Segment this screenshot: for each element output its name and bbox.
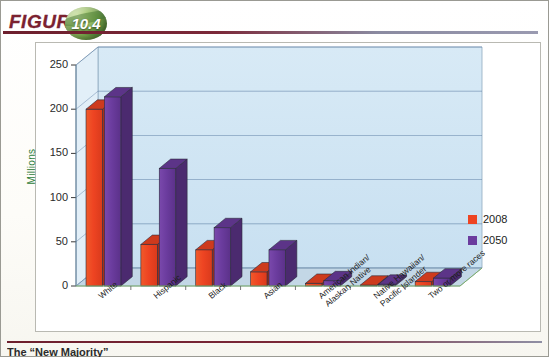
y-axis-tick: 50 [56, 235, 68, 247]
y-axis-tick-labels: 050100150200250 [34, 43, 68, 333]
legend-swatch-2008 [468, 215, 477, 224]
globe-icon: 10.4 [65, 7, 107, 40]
chart-container: 050100150200250 Millions WhiteHispanicBl… [35, 42, 541, 332]
bar-2050-2 [214, 218, 242, 286]
y-axis-tick: 0 [62, 279, 68, 291]
figure-page: FIGURE 10.4 [0, 0, 549, 357]
legend-label-2050: 2050 [483, 234, 507, 246]
legend-label-2008: 2008 [483, 213, 507, 225]
figure-caption: The “New Majority” [7, 346, 407, 357]
y-axis-tick: 250 [50, 58, 68, 70]
y-axis-title: Millions [26, 149, 37, 185]
y-axis-tick: 100 [50, 191, 68, 203]
chart-canvas [36, 43, 542, 333]
legend-item: 2050 [468, 234, 538, 246]
bar-2050-0 [104, 87, 132, 286]
bar-2050-1 [159, 159, 187, 286]
y-axis-tick: 150 [50, 146, 68, 158]
legend-item: 2008 [468, 213, 538, 225]
bar-2050-3 [269, 240, 297, 286]
legend-swatch-2050 [468, 236, 477, 245]
bar-chart-3d: 050100150200250 Millions WhiteHispanicBl… [36, 43, 542, 333]
chart-legend: 2008 2050 [468, 213, 538, 255]
figure-number: 10.4 [71, 15, 100, 32]
y-axis-tick: 200 [50, 102, 68, 114]
footer-divider [7, 341, 542, 343]
